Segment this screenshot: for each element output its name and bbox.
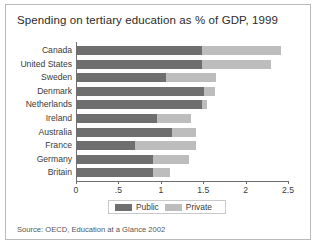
bar-segment-public <box>76 155 153 164</box>
bar-segment-private <box>202 100 207 109</box>
bar-row: Canada <box>76 44 288 58</box>
bar-segment-private <box>202 46 281 55</box>
legend-label-private: Private <box>186 202 212 212</box>
category-label: Netherlands <box>26 99 72 110</box>
bar-row: Australia <box>76 126 288 140</box>
x-tick-mark <box>161 181 162 184</box>
bar-row: Ireland <box>76 112 288 126</box>
stacked-bar <box>76 128 196 137</box>
bar-segment-private <box>166 73 216 82</box>
plot-area: CanadaUnited StatesSwedenDenmarkNetherla… <box>76 44 288 180</box>
bar-segment-public <box>76 168 153 177</box>
bar-segment-public <box>76 46 202 55</box>
bar-segment-public <box>76 60 202 69</box>
bar-segment-private <box>135 141 197 150</box>
category-label: Germany <box>37 154 72 165</box>
x-tick-label: 2.5 <box>282 185 294 195</box>
stacked-bar <box>76 73 216 82</box>
bar-segment-private <box>157 114 192 123</box>
bar-segment-private <box>153 168 170 177</box>
bar-segment-public <box>76 128 172 137</box>
bar-segment-private <box>204 87 215 96</box>
bar-segment-public <box>76 141 135 150</box>
x-tick-mark <box>203 181 204 184</box>
bar-rows: CanadaUnited StatesSwedenDenmarkNetherla… <box>76 44 288 180</box>
stacked-bar <box>76 100 207 109</box>
category-label: Australia <box>39 127 72 138</box>
x-tick-label: 2 <box>243 185 248 195</box>
stacked-bar <box>76 155 189 164</box>
category-label: Britain <box>48 167 72 178</box>
category-label: France <box>45 140 72 151</box>
category-label: Ireland <box>46 113 72 124</box>
bar-segment-private <box>202 60 271 69</box>
stacked-bar <box>76 168 170 177</box>
bar-row: France <box>76 139 288 153</box>
x-tick-mark <box>76 181 77 184</box>
legend-item-private[interactable]: Private <box>165 202 212 212</box>
x-axis-ticks: 0.511.522.5 <box>76 181 288 197</box>
legend-swatch-private-icon <box>165 204 182 211</box>
bar-row: Sweden <box>76 71 288 85</box>
bar-segment-public <box>76 87 204 96</box>
stacked-bar <box>76 114 191 123</box>
stacked-bar <box>76 87 215 96</box>
stacked-bar <box>76 141 196 150</box>
source-note: Source: OECD, Education at a Glance 2002 <box>17 225 165 234</box>
legend-item-public[interactable]: Public <box>115 202 159 212</box>
chart-legend: Public Private <box>108 200 226 214</box>
x-tick-label: 1.5 <box>197 185 209 195</box>
category-label: Sweden <box>41 72 72 83</box>
category-label: Canada <box>42 45 72 56</box>
x-tick-label: 1 <box>158 185 163 195</box>
bar-row: Denmark <box>76 85 288 99</box>
bar-row: United States <box>76 58 288 72</box>
chart-title: Spending on tertiary education as % of G… <box>17 14 278 26</box>
x-tick-label: .5 <box>115 185 122 195</box>
bar-row: Britain <box>76 166 288 180</box>
bar-segment-private <box>172 128 196 137</box>
stacked-bar <box>76 60 271 69</box>
x-tick-label: 0 <box>74 185 79 195</box>
bar-row: Netherlands <box>76 98 288 112</box>
bar-segment-public <box>76 73 166 82</box>
chart-figure: Spending on tertiary education as % of G… <box>0 0 316 247</box>
category-label: Denmark <box>37 86 72 97</box>
x-tick-mark <box>118 181 119 184</box>
bar-segment-public <box>76 100 202 109</box>
x-tick-mark <box>288 181 289 184</box>
legend-label-public: Public <box>136 202 159 212</box>
x-tick-mark <box>246 181 247 184</box>
bar-segment-private <box>153 155 189 164</box>
bar-segment-public <box>76 114 157 123</box>
category-label: United States <box>20 59 72 70</box>
stacked-bar <box>76 46 281 55</box>
bar-row: Germany <box>76 153 288 167</box>
legend-swatch-public-icon <box>115 204 132 211</box>
